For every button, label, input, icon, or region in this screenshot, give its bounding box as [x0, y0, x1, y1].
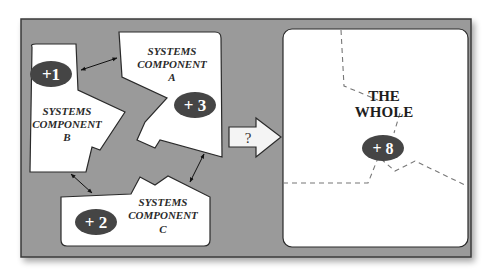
component-c-line1: SYSTEMS: [139, 196, 188, 208]
component-b-line1: SYSTEMS: [43, 105, 92, 117]
component-b-line3: B: [62, 131, 70, 143]
badge-c-text: + 2: [85, 213, 107, 232]
whole-panel: THE WHOLE + 8: [283, 29, 468, 247]
component-a-line3: A: [167, 71, 175, 83]
component-b-line2: COMPONENT: [32, 118, 103, 130]
question-mark: ?: [245, 130, 252, 146]
whole-line2: WHOLE: [355, 104, 413, 120]
component-c-line3: C: [159, 223, 167, 235]
badge-a-text: + 3: [184, 96, 206, 115]
badge-whole-text: + 8: [372, 140, 393, 157]
badge-b-text: +1: [42, 65, 60, 84]
component-a-line1: SYSTEMS: [148, 45, 197, 57]
component-c-line2: COMPONENT: [128, 209, 199, 221]
whole-line1: THE: [368, 88, 400, 104]
component-a-line2: COMPONENT: [137, 58, 208, 70]
systems-diagram: +1 SYSTEMS COMPONENT B SYSTEMS COMPONENT…: [0, 0, 493, 275]
